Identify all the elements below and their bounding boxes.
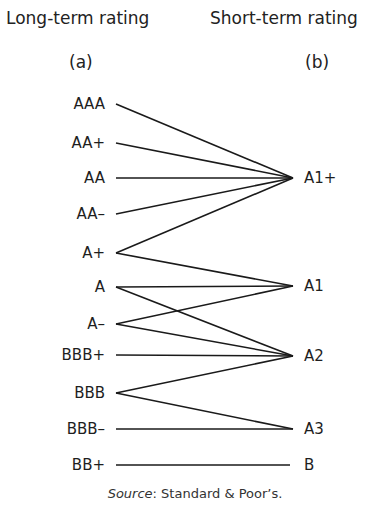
mapping-line [116, 286, 293, 324]
mapping-lines [0, 0, 390, 518]
mapping-line [116, 104, 293, 178]
mapping-line [116, 324, 293, 356]
mapping-line [116, 356, 293, 393]
mapping-line [116, 253, 293, 286]
mapping-line [116, 355, 293, 356]
mapping-line [116, 286, 293, 287]
mapping-line [116, 393, 293, 429]
mapping-line [116, 143, 293, 178]
source-prefix: Source [108, 486, 153, 501]
mapping-line [116, 178, 293, 253]
source-note: Source: Standard & Poor’s. [0, 486, 390, 501]
source-text: : Standard & Poor’s. [153, 486, 283, 501]
mapping-line [116, 178, 293, 214]
mapping-line [116, 287, 293, 356]
